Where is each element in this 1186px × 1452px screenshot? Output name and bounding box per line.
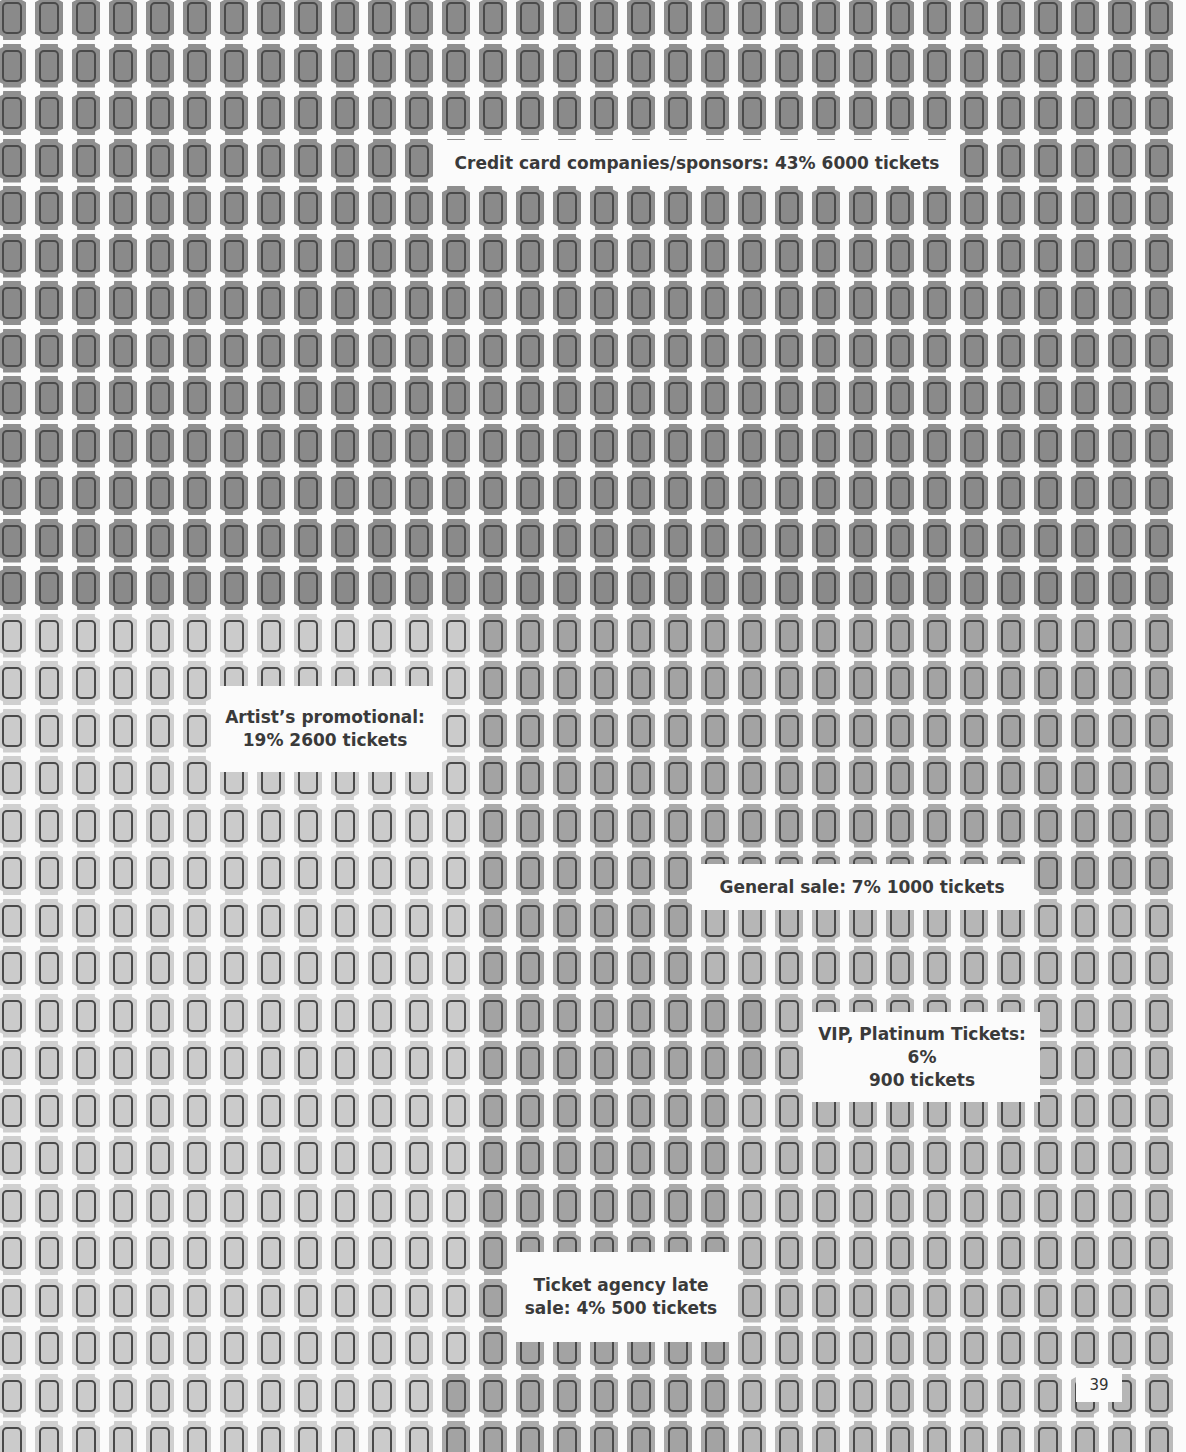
ticket-icon	[72, 1279, 100, 1323]
ticket-icon	[72, 1089, 100, 1133]
ticket-icon	[183, 1231, 211, 1275]
ticket-icon	[220, 281, 248, 325]
ticket-icon	[775, 1136, 803, 1180]
ticket-icon	[479, 44, 507, 88]
ticket-icon	[553, 566, 581, 610]
ticket-icon	[35, 709, 63, 753]
ticket-icon	[849, 281, 877, 325]
ticket-icon	[923, 234, 951, 278]
ticket-icon	[849, 1279, 877, 1323]
ticket-icon	[294, 519, 322, 563]
ticket-icon	[1034, 1279, 1062, 1323]
ticket-icon	[294, 186, 322, 230]
ticket-icon	[849, 1184, 877, 1228]
ticket-icon	[405, 0, 433, 40]
ticket-icon	[294, 1041, 322, 1085]
ticket-icon	[997, 1374, 1025, 1418]
ticket-icon	[775, 281, 803, 325]
ticket-icon	[849, 1136, 877, 1180]
ticket-icon	[1034, 756, 1062, 800]
ticket-icon	[183, 139, 211, 183]
ticket-icon	[590, 329, 618, 373]
ticket-icon	[664, 91, 692, 135]
ticket-icon	[590, 1089, 618, 1133]
ticket-icon	[812, 0, 840, 40]
ticket-icon	[1145, 1326, 1173, 1370]
ticket-icon	[1071, 1279, 1099, 1323]
ticket-icon	[146, 566, 174, 610]
ticket-icon	[1071, 661, 1099, 705]
ticket-icon	[0, 1089, 26, 1133]
ticket-icon	[516, 471, 544, 515]
ticket-icon	[1034, 1136, 1062, 1180]
ticket-icon	[479, 614, 507, 658]
ticket-icon	[701, 1184, 729, 1228]
ticket-icon	[886, 566, 914, 610]
ticket-icon	[1034, 899, 1062, 943]
ticket-icon	[146, 424, 174, 468]
ticket-icon	[849, 1374, 877, 1418]
ticket-icon	[442, 471, 470, 515]
ticket-icon	[886, 804, 914, 848]
ticket-icon	[257, 614, 285, 658]
ticket-icon	[923, 91, 951, 135]
ticket-icon	[849, 329, 877, 373]
ticket-icon	[997, 661, 1025, 705]
ticket-icon	[72, 376, 100, 420]
ticket-icon	[183, 1421, 211, 1452]
ticket-icon	[886, 0, 914, 40]
ticket-icon	[72, 946, 100, 990]
ticket-icon	[775, 376, 803, 420]
ticket-icon	[701, 1421, 729, 1452]
ticket-icon	[109, 566, 137, 610]
ticket-icon	[479, 709, 507, 753]
ticket-icon	[1145, 186, 1173, 230]
ticket-icon	[849, 424, 877, 468]
ticket-icon	[109, 1421, 137, 1452]
ticket-icon	[368, 1279, 396, 1323]
ticket-icon	[479, 1421, 507, 1452]
ticket-icon	[1071, 0, 1099, 40]
ticket-icon	[627, 851, 655, 895]
ticket-icon	[775, 1041, 803, 1085]
ticket-icon	[183, 946, 211, 990]
ticket-icon	[960, 519, 988, 563]
ticket-icon	[664, 186, 692, 230]
ticket-icon	[997, 614, 1025, 658]
ticket-icon	[1034, 186, 1062, 230]
ticket-icon	[0, 1041, 26, 1085]
ticket-icon	[183, 1374, 211, 1418]
ticket-icon	[627, 661, 655, 705]
ticket-icon	[849, 946, 877, 990]
ticket-icon	[442, 661, 470, 705]
ticket-icon	[627, 376, 655, 420]
ticket-icon	[183, 994, 211, 1038]
ticket-icon	[738, 234, 766, 278]
ticket-icon	[368, 899, 396, 943]
ticket-icon	[257, 1279, 285, 1323]
ticket-icon	[701, 329, 729, 373]
ticket-icon	[1145, 946, 1173, 990]
ticket-icon	[627, 994, 655, 1038]
ticket-icon	[590, 471, 618, 515]
ticket-icon	[35, 281, 63, 325]
ticket-icon	[442, 756, 470, 800]
ticket-icon	[516, 1421, 544, 1452]
ticket-icon	[405, 234, 433, 278]
ticket-icon	[331, 0, 359, 40]
ticket-icon	[442, 1184, 470, 1228]
ticket-icon	[479, 1326, 507, 1370]
ticket-icon	[479, 994, 507, 1038]
ticket-icon	[72, 0, 100, 40]
ticket-icon	[886, 186, 914, 230]
ticket-icon	[1145, 709, 1173, 753]
ticket-icon	[183, 756, 211, 800]
ticket-icon	[1108, 661, 1136, 705]
ticket-icon	[146, 1279, 174, 1323]
ticket-icon	[997, 281, 1025, 325]
ticket-icon	[368, 519, 396, 563]
ticket-icon	[331, 804, 359, 848]
ticket-icon	[109, 376, 137, 420]
ticket-icon	[1108, 1279, 1136, 1323]
ticket-icon	[72, 851, 100, 895]
